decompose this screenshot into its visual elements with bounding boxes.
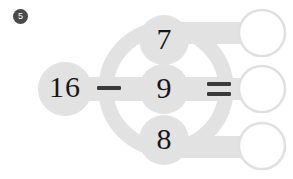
- subtrahend-value-bottom: 8: [140, 124, 188, 154]
- answer-circle-top[interactable]: [239, 10, 285, 56]
- minuend-value: 16: [38, 72, 92, 102]
- equals-sign-icon-bottom: [207, 92, 231, 96]
- answer-circle-middle[interactable]: [239, 66, 285, 112]
- answer-circles[interactable]: [239, 10, 285, 169]
- equals-sign-icon-top: [207, 82, 231, 86]
- subtrahend-value-middle: 9: [140, 73, 188, 103]
- subtrahend-value-top: 7: [140, 24, 188, 54]
- answer-circle-bottom[interactable]: [239, 123, 285, 169]
- worksheet-canvas: 5: [0, 0, 293, 179]
- minus-sign-icon: [97, 86, 121, 90]
